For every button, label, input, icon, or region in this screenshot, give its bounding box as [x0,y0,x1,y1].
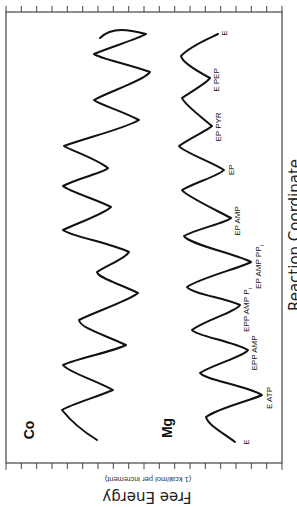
state-label-e-atp: E ATP [265,387,274,409]
co-label: Co [21,421,37,440]
top-axis-ticks [6,6,282,12]
state-label-ep-amp: EP AMP [233,206,242,236]
state-label-ep-amp-ppi-main: EP AMP PP [254,246,263,288]
mg-label: Mg [159,418,175,438]
bottom-axis-ticks [6,463,282,470]
state-label-e-start: E [242,439,251,444]
state-label-ep-amp-ppi-sub: i [259,245,265,246]
state-label-epp-amp-pi-main: EPP AMP P [242,289,251,331]
reaction-coordinate-axis-title: Reaction Coordinate [286,159,297,311]
state-label-ep-amp-ppi: EP AMP PPi [254,245,265,289]
state-label-e-pep: E PEP [212,68,221,92]
free-energy-units: (1 kcal/mol per increment) [104,475,191,484]
state-label-epp-amp-pi-sub: i [247,288,253,289]
state-label-epp-amp-pi: EPP AMP Pi [242,288,253,332]
state-label-ep-pyr: EP PYR [214,112,223,141]
state-label-ep: EP [227,165,236,176]
state-label-epp-amp: EPP AMP [250,336,259,371]
co-energy-curve [62,30,150,440]
mg-energy-curve [179,34,262,442]
free-energy-chart: Co Mg E E ATP EPP AMP EPP AMP Pi EP AMP … [0,0,297,507]
plot-frame [6,12,282,463]
state-label-e-end: E [220,30,229,35]
free-energy-axis-title: Free Energy [102,488,191,506]
